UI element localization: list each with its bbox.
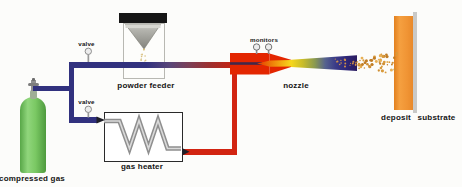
spray-particle	[385, 71, 387, 73]
powder-funnel-icon	[126, 25, 161, 50]
cold-spray-process-diagram: compressed gas valve valve powder feeder…	[0, 0, 462, 187]
spray-particle	[340, 60, 341, 61]
powder-funnel-rim	[126, 25, 161, 29]
spray-particle	[364, 67, 366, 69]
spray-particle	[143, 49, 144, 50]
spray-particle	[140, 59, 142, 61]
spray-particle	[335, 58, 336, 59]
spray-particle	[359, 60, 361, 62]
spray-particle	[352, 63, 354, 65]
spray-particle	[349, 65, 350, 66]
spray-particle	[381, 55, 384, 58]
spray-particle	[355, 63, 357, 65]
spray-particle	[379, 59, 382, 62]
heater-outlet-arrow-icon	[182, 148, 190, 156]
spray-particle	[375, 60, 378, 63]
deposit-label: deposit	[381, 112, 411, 121]
spray-particle	[141, 58, 142, 59]
spray-particle	[344, 59, 346, 61]
spray-particle	[361, 63, 364, 66]
spray-particle	[358, 67, 360, 69]
monitors-label: monitors	[250, 36, 278, 43]
spray-particle	[380, 67, 383, 70]
spray-particle	[358, 63, 361, 66]
spray-particle	[364, 61, 367, 64]
spray-particle	[141, 56, 143, 58]
spray-particle	[355, 62, 357, 64]
spray-particle	[392, 62, 394, 64]
gas-jet	[291, 55, 357, 71]
diagram-overlay	[0, 0, 462, 187]
spray-particle	[387, 64, 388, 65]
spray-particle	[373, 57, 376, 60]
valve-icon	[85, 48, 91, 54]
spray-particle	[369, 59, 372, 62]
spray-particle	[396, 52, 398, 54]
heater-inlet-arrow-icon	[97, 117, 106, 124]
spray-particle	[386, 61, 388, 63]
heater-coil-icon	[104, 121, 181, 149]
spray-particle	[396, 54, 398, 56]
spray-particle	[385, 55, 388, 58]
monitor-gauge-icon	[253, 44, 259, 50]
spray-particle	[362, 59, 364, 61]
spray-particle	[144, 55, 146, 57]
valve-stem	[88, 55, 90, 63]
nozzle-label: nozzle	[283, 81, 309, 90]
spray-particle	[350, 63, 351, 64]
spray-particle	[339, 64, 341, 66]
spray-particle	[381, 69, 384, 72]
spray-particle	[357, 61, 359, 63]
spray-particle	[352, 61, 354, 63]
valve-stem	[88, 113, 90, 118]
spray-particle	[141, 54, 143, 56]
spray-particle	[361, 57, 364, 60]
compressed-gas-label: compressed gas	[0, 174, 65, 183]
spray-particle	[344, 63, 346, 65]
spray-particle	[368, 65, 370, 67]
spray-particle	[394, 68, 396, 70]
valve-bottom-label: valve	[78, 98, 94, 105]
spray-particle	[336, 61, 337, 62]
spray-particle	[383, 61, 386, 64]
spray-particle	[366, 63, 369, 66]
spray-particle	[378, 69, 380, 71]
spray-particle	[393, 57, 395, 59]
gas-heater-label: gas heater	[121, 162, 163, 171]
valve-top-label: valve	[78, 40, 94, 47]
powder-feeder-label: powder feeder	[117, 80, 174, 89]
spray-particle	[340, 62, 342, 64]
monitor-gauge-icon	[265, 44, 271, 50]
spray-particle	[379, 63, 381, 65]
spray-particle	[344, 65, 346, 67]
substrate-label: substrate	[418, 112, 456, 121]
spray-particle	[389, 61, 391, 63]
spray-particle	[378, 59, 380, 61]
spray-particle	[144, 60, 145, 61]
valve-icon	[85, 106, 91, 112]
spray-particle	[390, 68, 393, 71]
